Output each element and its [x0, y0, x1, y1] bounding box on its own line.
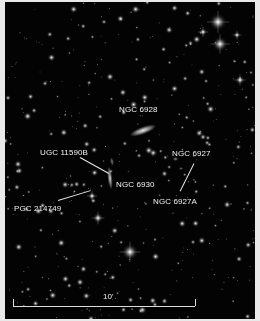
label-ngc6927a: NGC 6927A: [153, 197, 197, 206]
label-ngc6930: NGC 6930: [116, 180, 155, 189]
label-pgc214749: PGC 214749: [14, 204, 61, 213]
label-ugc11590b: UGC 11590B: [40, 148, 88, 157]
scale-bar-label: 10': [103, 292, 113, 301]
label-ngc6928: NGC 6928: [119, 105, 158, 114]
sky-image: NGC 6928 UGC 11590B NGC 6927 NGC 6930 NG…: [5, 2, 255, 319]
scale-bar-tick-left: [13, 299, 14, 306]
scale-bar-tick-right: [195, 299, 196, 306]
label-ngc6927: NGC 6927: [172, 149, 211, 158]
star-field: [5, 2, 255, 319]
scale-bar: [13, 306, 195, 307]
finder-chart-figure: NGC 6928 UGC 11590B NGC 6927 NGC 6930 NG…: [0, 0, 260, 321]
